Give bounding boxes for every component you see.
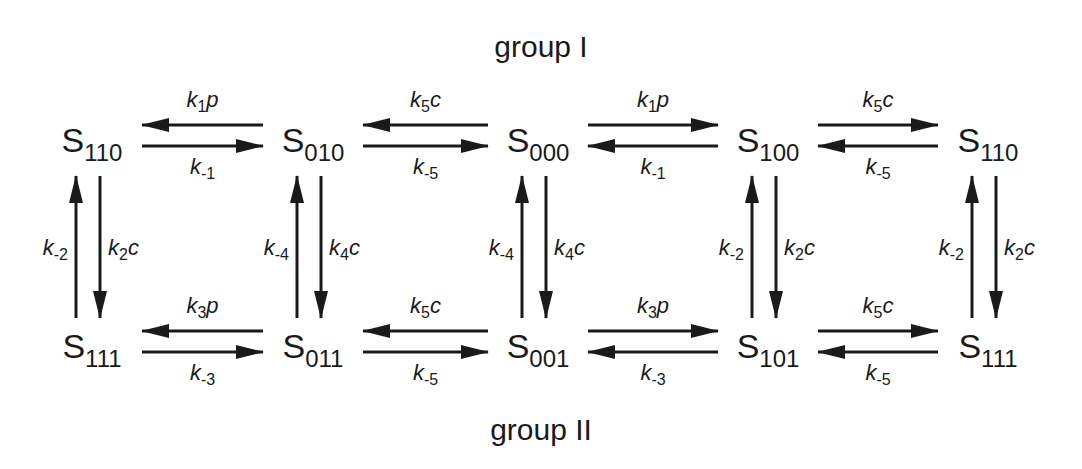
- rate-label-vertical-1-left: k-4: [264, 235, 289, 263]
- rate-variable: c: [430, 293, 441, 318]
- rate-subscript: -4: [500, 246, 514, 263]
- state-symbol: S: [737, 327, 760, 365]
- rate-subscript: 5: [874, 304, 883, 321]
- rate-subscript: 4: [565, 246, 574, 263]
- state-bottom-3-S101: S101: [737, 327, 800, 372]
- state-symbol: S: [62, 121, 85, 159]
- rate-variable: c: [882, 293, 893, 318]
- rate-subscript: -5: [876, 371, 890, 388]
- rate-label-bottom-1-lower: k-5: [413, 360, 438, 388]
- rate-subscript: 1: [648, 98, 657, 115]
- rate-variable: p: [205, 87, 218, 112]
- state-top-0-S110: S110: [62, 121, 123, 166]
- rate-subscript: 2: [1015, 246, 1024, 263]
- rate-subscript: -3: [201, 371, 215, 388]
- rate-label-top-2-lower: k-1: [640, 154, 665, 182]
- rate-subscript: -5: [876, 165, 890, 182]
- rate-label-bottom-3-lower: k-5: [865, 360, 890, 388]
- state-top-2-S000: S000: [507, 121, 570, 166]
- state-subscript: 000: [529, 139, 569, 166]
- rate-subscript: 5: [421, 304, 430, 321]
- state-subscript: 110: [84, 139, 122, 166]
- rate-subscript: -2: [730, 246, 744, 263]
- rate-label-vertical-2-left: k-4: [489, 235, 514, 263]
- state-subscript: 111: [85, 345, 121, 372]
- state-symbol: S: [507, 121, 530, 159]
- rate-label-vertical-0-right: k2c: [108, 235, 139, 263]
- rate-subscript: -2: [54, 246, 68, 263]
- state-subscript: 100: [759, 139, 799, 166]
- rate-label-vertical-3-left: k-2: [719, 235, 744, 263]
- state-subscript: 111: [981, 345, 1017, 372]
- state-top-1-S010: S010: [282, 121, 345, 166]
- rate-subscript: 5: [874, 98, 883, 115]
- rate-label-top-1-upper: k5c: [410, 87, 441, 115]
- rate-label-vertical-1-right: k4c: [329, 235, 360, 263]
- rate-label-top-2-upper: k1p: [637, 87, 669, 115]
- rate-label-top-1-lower: k-5: [413, 154, 438, 182]
- state-top-4-S110: S110: [958, 121, 1019, 166]
- rate-label-top-3-upper: k5c: [863, 87, 894, 115]
- rate-variable: c: [349, 235, 360, 260]
- rate-subscript: -5: [424, 371, 438, 388]
- rate-subscript: -1: [201, 165, 215, 182]
- state-symbol: S: [283, 327, 306, 365]
- rate-subscript: -3: [651, 371, 665, 388]
- state-top-3-S100: S100: [737, 121, 800, 166]
- state-subscript: 101: [759, 345, 799, 372]
- rate-subscript: 2: [119, 246, 128, 263]
- rate-label-bottom-2-lower: k-3: [640, 360, 665, 388]
- rate-subscript: -2: [950, 246, 964, 263]
- rate-label-bottom-2-upper: k3p: [637, 293, 669, 321]
- rate-variable: p: [656, 293, 669, 318]
- state-symbol: S: [958, 327, 981, 365]
- state-subscript: 001: [529, 345, 569, 372]
- rate-label-bottom-3-upper: k5c: [863, 293, 894, 321]
- rate-label-vertical-3-right: k2c: [784, 235, 815, 263]
- rate-label-top-3-lower: k-5: [865, 154, 890, 182]
- rate-label-vertical-4-right: k2c: [1004, 235, 1035, 263]
- rate-subscript: 2: [795, 246, 804, 263]
- rate-subscript: 3: [197, 304, 206, 321]
- rate-variable: c: [804, 235, 815, 260]
- state-symbol: S: [282, 121, 305, 159]
- rate-subscript: -4: [275, 246, 289, 263]
- state-bottom-1-S011: S011: [283, 327, 344, 372]
- rate-label-vertical-0-left: k-2: [43, 235, 68, 263]
- rate-label-top-0-upper: k1p: [186, 87, 218, 115]
- rate-variable: c: [430, 87, 441, 112]
- rate-variable: p: [205, 293, 218, 318]
- kinetic-scheme-diagram: group I group II S110S010S000S100S110S11…: [0, 0, 1082, 469]
- state-symbol: S: [62, 327, 85, 365]
- rate-subscript: 3: [648, 304, 657, 321]
- rate-label-bottom-0-upper: k3p: [186, 293, 218, 321]
- rate-subscript: -1: [651, 165, 665, 182]
- state-subscript: 010: [304, 139, 344, 166]
- rate-variable: c: [574, 235, 585, 260]
- rate-variable: c: [1024, 235, 1035, 260]
- rates-layer: k1pk-1k5ck-5k1pk-1k5ck-5k3pk-3k5ck-5k3pk…: [43, 87, 1035, 388]
- rate-subscript: 1: [197, 98, 206, 115]
- rate-variable: p: [656, 87, 669, 112]
- group-ii-label: group II: [490, 413, 592, 446]
- group-i-label: group I: [494, 30, 587, 63]
- state-bottom-2-S001: S001: [507, 327, 570, 372]
- rate-variable: c: [128, 235, 139, 260]
- rate-label-top-0-lower: k-1: [190, 154, 215, 182]
- state-bottom-0-S111: S111: [62, 327, 121, 372]
- rate-subscript: 5: [421, 98, 430, 115]
- state-symbol: S: [507, 327, 530, 365]
- rate-label-vertical-2-right: k4c: [554, 235, 585, 263]
- rate-subscript: -5: [424, 165, 438, 182]
- state-subscript: 011: [305, 345, 343, 372]
- rate-subscript: 4: [340, 246, 349, 263]
- state-subscript: 110: [980, 139, 1018, 166]
- state-symbol: S: [737, 121, 760, 159]
- rate-label-bottom-1-upper: k5c: [410, 293, 441, 321]
- state-bottom-4-S111: S111: [958, 327, 1017, 372]
- rate-label-vertical-4-left: k-2: [939, 235, 964, 263]
- rate-variable: c: [882, 87, 893, 112]
- rate-label-bottom-0-lower: k-3: [190, 360, 215, 388]
- state-symbol: S: [958, 121, 981, 159]
